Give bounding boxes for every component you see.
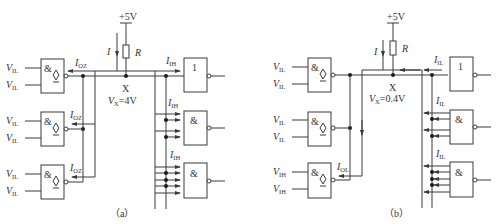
circuit-diagram: +5V R I X VX=4V IOZ IIH & bbox=[0, 0, 498, 224]
node-x-a bbox=[124, 74, 128, 78]
panel-b: +5V R I X VX=0.4V IIL & VIL VIL bbox=[273, 11, 491, 219]
current-label-a: I bbox=[106, 46, 111, 57]
resistor-label-a: R bbox=[134, 47, 141, 58]
inversion-bubble-icon bbox=[331, 73, 335, 77]
load-gate-a-2: & bbox=[184, 111, 225, 145]
driver-gate-b-3: & VIH VIH bbox=[273, 163, 335, 198]
load-gate-a-3: & bbox=[184, 163, 225, 198]
supply-label-a: +5V bbox=[119, 11, 138, 22]
input-label: VIH bbox=[273, 166, 286, 178]
iih-label-a-1: IIH bbox=[165, 55, 177, 67]
inverter-symbol: 1 bbox=[458, 61, 463, 72]
iih-label-a-3: IIH bbox=[169, 149, 181, 161]
inversion-bubble-icon bbox=[473, 178, 477, 182]
resistor-a bbox=[123, 45, 129, 58]
iih-label-a-2: IIH bbox=[167, 97, 179, 109]
current-label-b: I bbox=[373, 46, 378, 57]
node-voltage-b: VX=0.4V bbox=[369, 93, 406, 105]
input-label: VIL bbox=[6, 115, 18, 127]
and-symbol: & bbox=[44, 169, 52, 180]
resistor-label-b: R bbox=[401, 43, 408, 54]
inversion-bubble-icon bbox=[207, 126, 211, 130]
and-symbol: & bbox=[455, 167, 463, 178]
input-label: VIL bbox=[273, 61, 285, 73]
inversion-bubble-icon bbox=[207, 74, 211, 78]
input-label: VIH bbox=[273, 183, 286, 195]
input-label: VIL bbox=[6, 62, 18, 74]
driver-gate-a-2: & VIL VIL bbox=[6, 112, 68, 146]
input-label: VIL bbox=[273, 114, 285, 126]
caption-b: （b） bbox=[384, 208, 409, 219]
driver-gate-a-3: & VIL VIL bbox=[6, 165, 68, 199]
inversion-bubble-icon bbox=[207, 179, 211, 183]
input-label: VIL bbox=[6, 132, 18, 144]
supply-label-b: +5V bbox=[387, 11, 406, 22]
and-symbol: & bbox=[455, 114, 463, 125]
node-x-b bbox=[391, 73, 395, 77]
ioz-label-a-3: IOZ bbox=[69, 162, 82, 174]
iil-label-b-3: IIL bbox=[435, 148, 446, 160]
inverter-symbol: 1 bbox=[192, 62, 197, 73]
driver-gate-b-2: & VIL VIL bbox=[273, 112, 335, 146]
and-symbol: & bbox=[311, 116, 319, 127]
ioz-label-a-2: IOZ bbox=[69, 109, 82, 121]
node-label-a: X bbox=[122, 83, 130, 94]
inversion-bubble-icon bbox=[473, 125, 477, 129]
node-label-b: X bbox=[389, 82, 397, 93]
inversion-bubble-icon bbox=[331, 178, 335, 182]
load-gate-a-1: 1 bbox=[184, 58, 225, 92]
iil-label-b-1: IIL bbox=[433, 54, 444, 66]
resistor-b bbox=[390, 41, 396, 55]
node-voltage-a: VX=4V bbox=[108, 95, 137, 107]
load-gate-b-3: & bbox=[450, 162, 491, 197]
driver-gate-a-1: & VIL VIL bbox=[6, 59, 68, 93]
driver-gate-b-1: & VIL VIL bbox=[273, 58, 335, 92]
ioz-label-a-1: IOZ bbox=[74, 57, 87, 69]
caption-a: （a） bbox=[110, 208, 134, 219]
input-label: VIL bbox=[6, 79, 18, 91]
inversion-bubble-icon bbox=[473, 73, 477, 77]
inversion-bubble-icon bbox=[64, 180, 68, 184]
inversion-bubble-icon bbox=[64, 74, 68, 78]
iol-label-b: IOL bbox=[336, 161, 349, 173]
and-symbol: & bbox=[190, 115, 198, 126]
panel-a: +5V R I X VX=4V IOZ IIH & bbox=[6, 11, 225, 219]
and-symbol: & bbox=[311, 167, 319, 178]
load-gate-b-1: 1 bbox=[450, 57, 491, 91]
input-label: VIL bbox=[6, 168, 18, 180]
input-label: VIL bbox=[273, 131, 285, 143]
and-symbol: & bbox=[311, 62, 319, 73]
load-gate-b-2: & bbox=[450, 110, 491, 144]
and-symbol: & bbox=[190, 168, 198, 179]
input-label: VIL bbox=[6, 185, 18, 197]
and-symbol: & bbox=[44, 63, 52, 74]
iil-label-b-2: IIL bbox=[435, 95, 446, 107]
and-symbol: & bbox=[44, 116, 52, 127]
input-label: VIL bbox=[273, 78, 285, 90]
inversion-bubble-icon bbox=[64, 127, 68, 131]
inversion-bubble-icon bbox=[331, 126, 335, 130]
